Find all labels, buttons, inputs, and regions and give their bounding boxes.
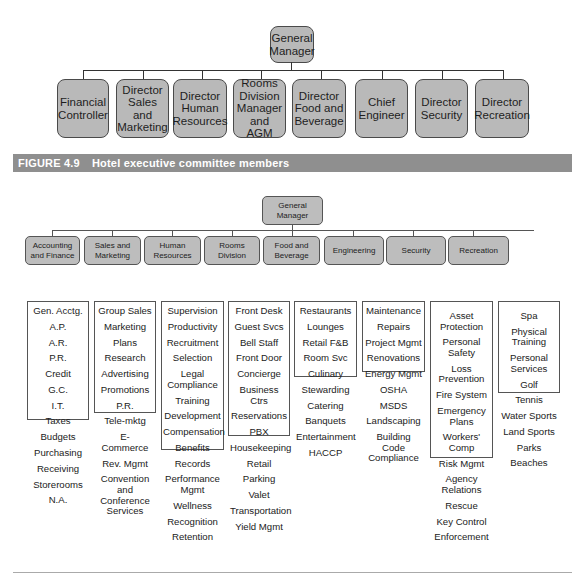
function-item: Storerooms: [29, 480, 87, 491]
function-item: OSHA: [364, 385, 423, 396]
function-item: Retail F&B: [296, 338, 355, 349]
member-label: Director Food and Beverage: [294, 90, 343, 128]
function-item: A.R.: [29, 338, 87, 349]
function-item: PBX: [230, 427, 288, 438]
function-item: Catering: [296, 401, 355, 412]
function-item: Budgets: [29, 432, 87, 443]
function-item: Fire System: [432, 390, 491, 401]
function-item: Taxes: [29, 416, 87, 427]
function-item: Lounges: [296, 322, 355, 333]
function-item: E- Commerce: [96, 432, 154, 453]
function-item: Loss Prevention: [432, 364, 491, 385]
function-item: Benefits: [163, 443, 222, 454]
function-item: Concierge: [230, 369, 288, 380]
member-box: Director Food and Beverage: [292, 79, 346, 138]
function-item: MSDS: [364, 401, 423, 412]
function-item: Training: [163, 396, 222, 407]
general-manager-label: General Manager: [265, 201, 320, 220]
function-item: Water Sports: [500, 411, 558, 422]
department-box: Rooms Division: [204, 236, 260, 265]
function-item: Maintenance: [364, 306, 423, 317]
department-box: Sales and Marketing: [84, 236, 141, 265]
function-item: Restaurants: [296, 306, 355, 317]
function-item: Culinary: [296, 369, 355, 380]
department-label: Rooms Division: [207, 241, 257, 260]
function-item: Group Sales: [96, 306, 154, 317]
function-item: Rev. Mgmt: [96, 459, 154, 470]
function-item: Productivity: [163, 322, 222, 333]
function-list-food: RestaurantsLoungesRetail F&BRoom SvcCuli…: [294, 301, 357, 377]
figure-title: Hotel executive committee members: [92, 157, 289, 169]
department-box: Security: [386, 236, 446, 265]
function-list-engineering: MaintenanceRepairsProject MgmtRenovation…: [362, 301, 425, 372]
function-item: Personal Safety: [432, 337, 491, 358]
general-manager-box: General Manager: [270, 26, 314, 63]
department-label: Recreation: [459, 246, 498, 256]
function-item: Wellness: [163, 501, 222, 512]
function-item: Stewarding: [296, 385, 355, 396]
function-item: P.R.: [96, 401, 154, 412]
department-box: Recreation: [448, 236, 509, 265]
department-label: Food and Beverage: [266, 241, 317, 260]
function-item: A.P.: [29, 322, 87, 333]
function-item: Housekeeping: [230, 443, 288, 454]
function-item: Key Control: [432, 517, 491, 528]
department-box: Human Resources: [144, 236, 201, 265]
member-box: Director Sales and Marketing: [116, 79, 169, 138]
function-item: Plans: [96, 338, 154, 349]
function-item: Performance Mgmt: [163, 474, 222, 495]
function-item: Selection: [163, 353, 222, 364]
department-box: Accounting and Finance: [25, 236, 80, 265]
member-label: Director Recreation: [474, 96, 530, 121]
function-item: Convention and Conference Services: [96, 474, 154, 516]
function-item: Retail: [230, 459, 288, 470]
connector-line: [143, 70, 144, 79]
function-item: Enforcement: [432, 532, 491, 543]
member-label: Rooms Division Manager and AGM: [236, 77, 283, 140]
function-item: Retention: [163, 532, 222, 543]
function-item: Parking: [230, 474, 288, 485]
function-list-rooms: Front DeskGuest SvcsBell StaffFront Door…: [228, 301, 290, 436]
department-label: Human Resources: [147, 241, 198, 260]
general-manager-box: General Manager: [262, 196, 323, 225]
function-item: Banquets: [296, 416, 355, 427]
function-item: Risk Mgmt: [432, 459, 491, 470]
member-label: Director Sales and Marketing: [117, 84, 168, 134]
function-item: P.R.: [29, 353, 87, 364]
department-label: Accounting and Finance: [28, 241, 77, 260]
function-item: Agency Relations: [432, 474, 491, 495]
member-label: Director Human Resources: [173, 90, 228, 128]
function-item: Personal Services: [500, 353, 558, 374]
function-item: Promotions: [96, 385, 154, 396]
function-item: Golf: [500, 380, 558, 391]
function-item: Land Sports: [500, 427, 558, 438]
general-manager-label: General Manager: [269, 32, 314, 57]
function-item: Emergency Plans: [432, 406, 491, 427]
figure-number: FIGURE 4.9: [18, 157, 80, 169]
function-item: Credit: [29, 369, 87, 380]
function-item: Spa: [500, 311, 558, 322]
connector-line: [202, 70, 203, 79]
function-item: Room Svc: [296, 353, 355, 364]
function-item: Workers' Comp: [432, 432, 491, 453]
function-item: Transportation: [230, 506, 288, 517]
function-item: Asset Protection: [432, 311, 491, 332]
function-item: Tennis: [500, 395, 558, 406]
function-item: Legal Compliance: [163, 369, 222, 390]
function-item: Front Door: [230, 353, 288, 364]
department-label: Sales and Marketing: [87, 241, 138, 260]
function-item: Yield Mgmt: [230, 522, 288, 533]
function-item: Landscaping: [364, 416, 423, 427]
function-item: Entertainment: [296, 432, 355, 443]
function-item: Development: [163, 411, 222, 422]
function-list-security: Asset ProtectionPersonal SafetyLoss Prev…: [430, 301, 493, 458]
function-item: Renovations: [364, 353, 423, 364]
function-item: HACCP: [296, 448, 355, 459]
connector-line: [442, 70, 443, 79]
connector-line: [52, 230, 534, 231]
department-label: Security: [402, 246, 431, 256]
member-label: Chief Engineer: [358, 96, 405, 121]
function-item: G.C.: [29, 385, 87, 396]
function-item: I.T.: [29, 401, 87, 412]
function-item: Recruitment: [163, 338, 222, 349]
